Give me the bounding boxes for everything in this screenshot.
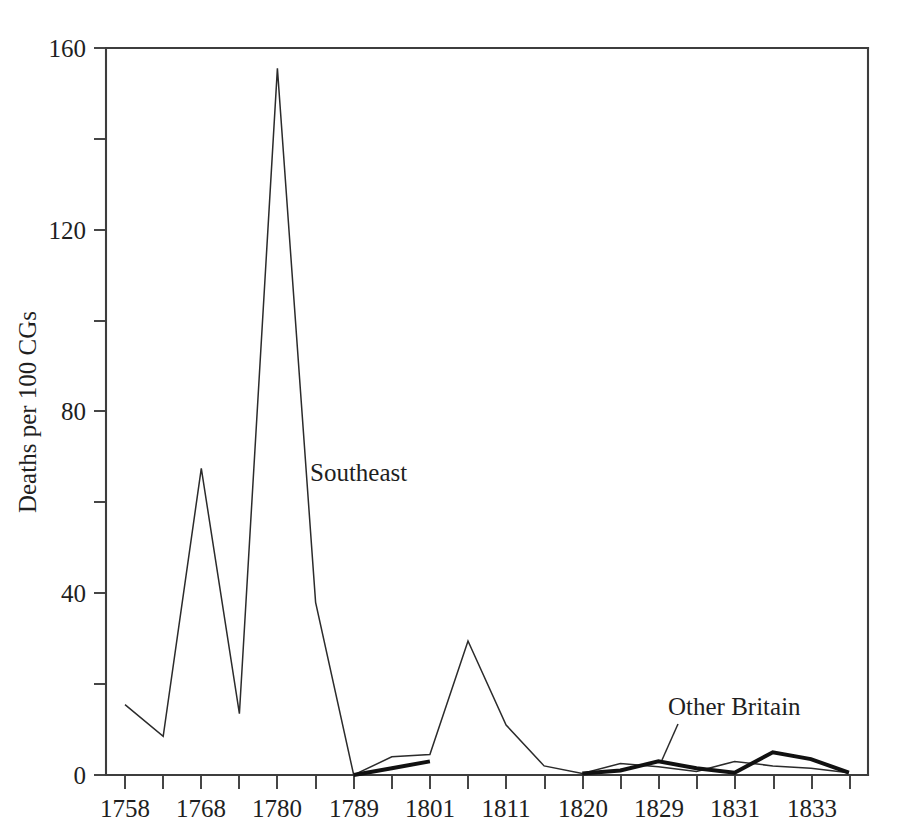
- x-tick-label-1820: 1820: [558, 795, 608, 822]
- y-tick-label-80: 80: [61, 398, 86, 425]
- annotation-other-britain: Other Britain: [668, 693, 801, 720]
- y-axis-ticks: [94, 48, 106, 775]
- y-tick-label-120: 120: [49, 217, 87, 244]
- annotation-southeast: Southeast: [310, 459, 407, 486]
- x-axis-labels: 1758 1768 1780 1789 1801 1811 1820 1829 …: [100, 795, 837, 822]
- y-tick-label-40: 40: [61, 580, 86, 607]
- x-tick-label-1833: 1833: [787, 795, 837, 822]
- x-tick-label-1811: 1811: [481, 795, 530, 822]
- y-axis-labels: 0 40 80 120 160: [49, 35, 87, 789]
- x-tick-label-1801: 1801: [405, 795, 455, 822]
- x-tick-label-1768: 1768: [176, 795, 226, 822]
- y-tick-label-0: 0: [74, 762, 87, 789]
- annotation-group: Southeast Other Britain: [310, 459, 801, 760]
- y-axis-title: Deaths per 100 CGs: [14, 311, 41, 513]
- x-tick-label-1829: 1829: [634, 795, 684, 822]
- series-line-other-britain: [354, 752, 849, 775]
- y-tick-label-160: 160: [49, 35, 87, 62]
- plot-frame: [106, 48, 868, 775]
- x-tick-label-1758: 1758: [100, 795, 150, 822]
- x-tick-label-1831: 1831: [710, 795, 760, 822]
- annotation-leader-line: [662, 724, 678, 760]
- x-tick-label-1789: 1789: [329, 795, 379, 822]
- data-series-group: [125, 68, 849, 775]
- x-axis-ticks: [125, 775, 850, 789]
- chart-svg: 0 40 80 120 160 Deaths per 100 CGs: [0, 0, 898, 836]
- x-tick-label-1780: 1780: [252, 795, 302, 822]
- series-line-southeast: [125, 68, 849, 775]
- chart-figure: 0 40 80 120 160 Deaths per 100 CGs: [0, 0, 898, 836]
